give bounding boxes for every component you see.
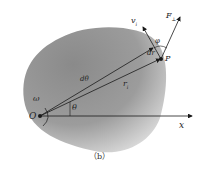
point-p-label: P bbox=[165, 55, 170, 63]
velocity-label: vi bbox=[131, 17, 137, 27]
theta-label: θ bbox=[72, 104, 77, 112]
phi-label: φ bbox=[155, 38, 160, 45]
x-axis-label: x bbox=[179, 121, 184, 130]
figure-caption: （b） bbox=[89, 153, 110, 161]
omega-label: ω bbox=[33, 95, 40, 103]
origin-label: O bbox=[29, 112, 36, 121]
dtheta-label: dθ bbox=[80, 76, 89, 83]
force-vector bbox=[161, 17, 180, 59]
dr-label: dr bbox=[147, 50, 155, 57]
force-label: F⊥ bbox=[166, 12, 176, 22]
origin-point bbox=[38, 114, 42, 118]
point-p bbox=[159, 57, 163, 61]
radius-label: ri bbox=[123, 80, 128, 90]
